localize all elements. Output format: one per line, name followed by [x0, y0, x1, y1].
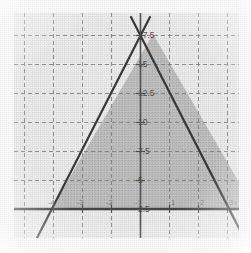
x-tick-label-3: 3 [229, 198, 233, 207]
x-tick-label-2: 2 [200, 198, 204, 207]
x-tick-label-neg2: -2 [106, 198, 113, 207]
y-tick-label-12-5: 12.5 [138, 88, 155, 98]
x-tick-label-neg4: -4 [48, 198, 55, 207]
y-tick-label-10: 10 [138, 117, 148, 127]
figure-canvas: 17.5 15 12.5 10 7.5 5 2.5 -4 -3 -2 -1 1 … [0, 0, 251, 253]
y-tick-label-7-5: 7.5 [138, 146, 150, 156]
y-tick-label-5: 5 [138, 175, 143, 185]
tick-label-layer: 17.5 15 12.5 10 7.5 5 2.5 -4 -3 -2 -1 1 … [0, 0, 251, 253]
x-axis-label: x [233, 198, 238, 207]
x-tick-label-1: 1 [171, 198, 175, 207]
x-tick-label-neg1: -1 [135, 198, 142, 207]
y-tick-label-17-5: 17.5 [138, 30, 155, 40]
y-tick-label-15: 15 [138, 59, 148, 69]
x-tick-label-neg3: -3 [77, 198, 84, 207]
